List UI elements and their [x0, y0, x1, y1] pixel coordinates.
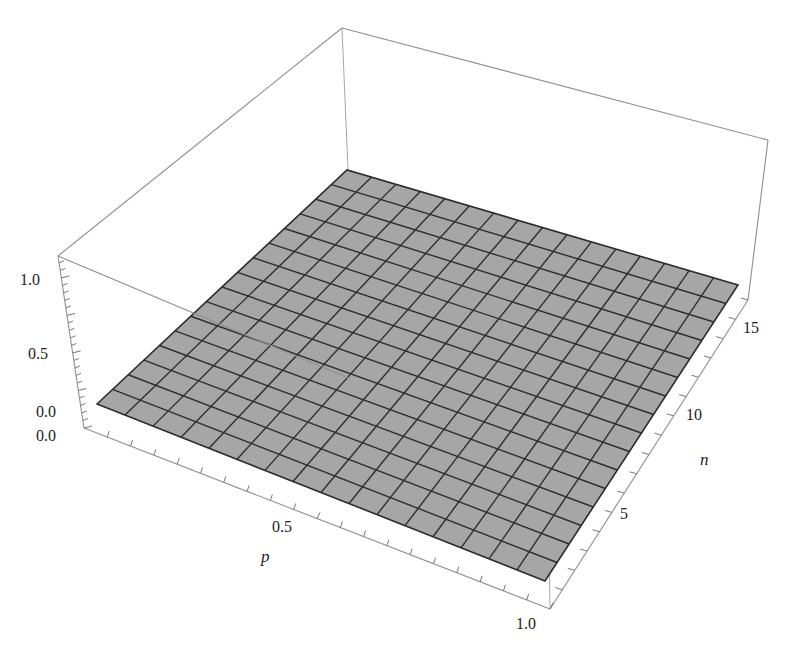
z-tick-label: 0.0 — [36, 403, 56, 420]
p-axis-label: p — [260, 547, 270, 566]
n-tick-label: 10 — [686, 406, 702, 423]
z-tick-label: 1.0 — [20, 271, 40, 288]
surface-plot: 1.0 0.5 0.0 0.0 0.5 1.0 p 5 10 15 n — [0, 0, 792, 667]
n-tick-label: 5 — [620, 505, 628, 522]
p-tick-label: 0.5 — [272, 518, 292, 535]
n-tick-label: 15 — [743, 319, 759, 336]
p-tick-label: 1.0 — [516, 615, 536, 632]
p-tick-label: 0.0 — [36, 427, 56, 444]
n-axis-label: n — [700, 450, 709, 469]
z-tick-label: 0.5 — [28, 345, 48, 362]
surface — [97, 170, 738, 581]
